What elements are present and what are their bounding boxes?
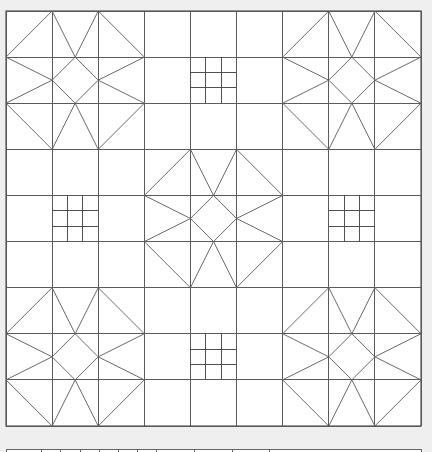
quilt-diagram bbox=[0, 0, 432, 452]
quilt-background bbox=[6, 11, 421, 426]
